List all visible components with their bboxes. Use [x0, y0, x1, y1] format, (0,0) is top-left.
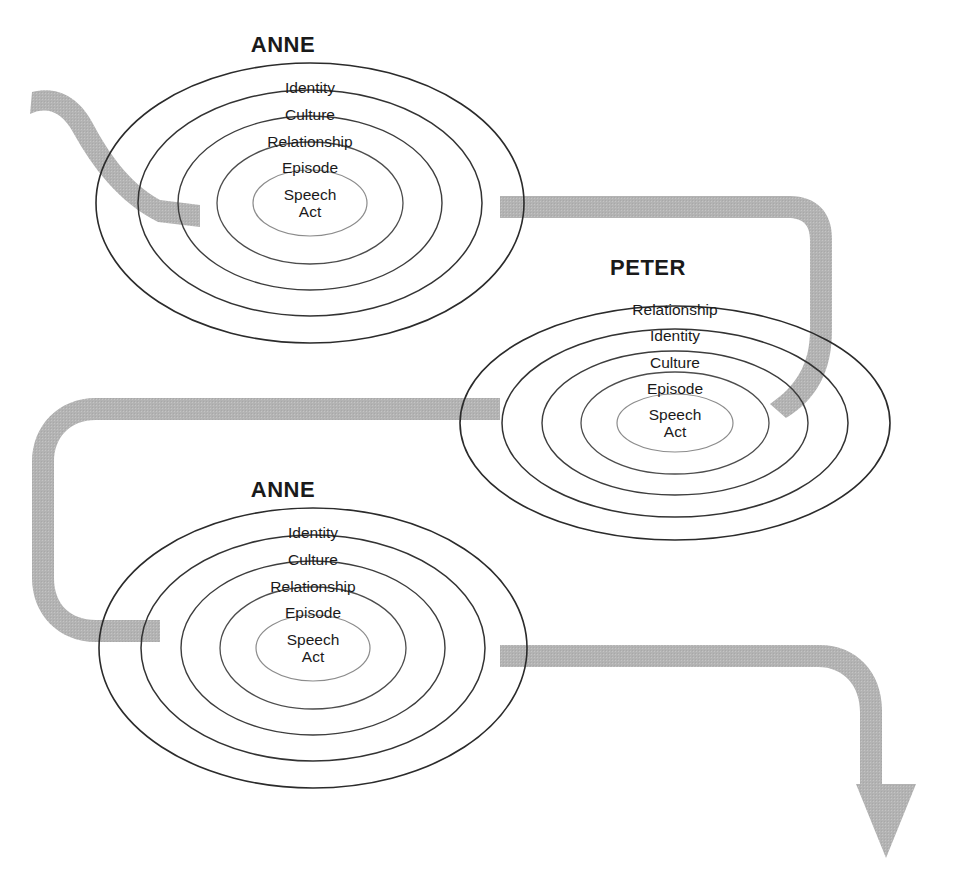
group-title-anne-top: ANNE: [251, 32, 315, 57]
ring-label-1: Identity: [288, 524, 338, 541]
ribbon-segment-to-arrow: [500, 645, 916, 858]
ring-label-5-line1: Speech: [287, 631, 340, 648]
ribbon-segment-peter-to-anne: [32, 398, 500, 642]
group-anne-top: ANNE Identity Culture Relationship Episo…: [96, 32, 524, 343]
ring-label-4: Episode: [285, 604, 341, 621]
ring-label-1: Identity: [285, 79, 335, 96]
ring-label-5-line1: Speech: [284, 186, 337, 203]
group-title-anne-bottom: ANNE: [251, 477, 315, 502]
ring-label-4: Episode: [647, 380, 703, 397]
ring-label-5-line2: Act: [664, 423, 687, 440]
ring-label-2: Identity: [650, 327, 700, 344]
ring-label-2: Culture: [288, 551, 338, 568]
ribbon-segment-start: [30, 90, 200, 227]
ring-label-4: Episode: [282, 159, 338, 176]
ring-label-1: Relationship: [632, 301, 717, 318]
group-title-peter: PETER: [610, 255, 686, 280]
diagram-svg: ANNE Identity Culture Relationship Episo…: [0, 0, 954, 888]
flow-ribbon: [30, 90, 916, 858]
diagram-canvas: ANNE Identity Culture Relationship Episo…: [0, 0, 954, 888]
ring-label-3: Culture: [650, 354, 700, 371]
ring-label-5-line2: Act: [299, 203, 322, 220]
ring-label-3: Relationship: [267, 133, 352, 150]
group-anne-bottom: ANNE Identity Culture Relationship Episo…: [99, 477, 527, 788]
ring-label-5-line1: Speech: [649, 406, 702, 423]
ring-label-3: Relationship: [270, 578, 355, 595]
ring-label-2: Culture: [285, 106, 335, 123]
ring-label-5-line2: Act: [302, 648, 325, 665]
